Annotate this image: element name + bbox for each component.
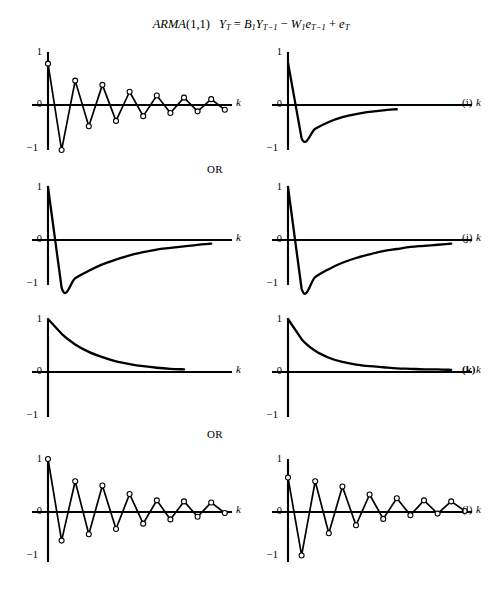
panel-l-right: 1 0 −1 k xyxy=(260,457,480,572)
y-axis-label-mid: 0 xyxy=(268,365,282,376)
title-eq-y2-sub: T−1 xyxy=(263,22,278,32)
y-axis-label-mid: 0 xyxy=(28,98,42,109)
y-axis-label-top: 1 xyxy=(28,181,42,192)
y-axis-label-mid: 0 xyxy=(268,233,282,244)
plot-i-left xyxy=(20,50,240,160)
data-point-marker xyxy=(422,498,427,503)
figure-title: ARMA(1,1)YT = B1YT−1 − W1eT−1 + eT xyxy=(0,17,502,32)
x-axis-label: k xyxy=(476,231,481,243)
y-axis-label-bottom: −1 xyxy=(264,409,278,420)
data-polyline xyxy=(48,459,225,541)
title-model: ARMA xyxy=(153,17,186,31)
x-axis-label: k xyxy=(476,96,481,108)
panel-tag-k: (k) xyxy=(462,363,475,375)
y-axis-label-bottom: −1 xyxy=(24,277,38,288)
x-axis-label: k xyxy=(236,363,241,375)
y-axis-label-bottom: −1 xyxy=(24,409,38,420)
or-separator-2: OR xyxy=(185,428,245,440)
data-point-markers xyxy=(46,61,228,152)
panel-i-right: 1 0 −1 k xyxy=(260,50,480,160)
y-axis-label-top: 1 xyxy=(268,46,282,57)
title-eq-y2: Y xyxy=(256,17,263,31)
y-axis-label-top: 1 xyxy=(28,313,42,324)
y-axis-label-bottom: −1 xyxy=(264,142,278,153)
data-point-marker xyxy=(182,499,187,504)
y-axis-label-bottom: −1 xyxy=(264,549,278,560)
plot-l-left xyxy=(20,457,240,572)
data-point-marker xyxy=(59,148,64,153)
data-point-marker xyxy=(46,61,51,66)
data-point-marker xyxy=(127,89,132,94)
data-point-marker xyxy=(449,499,454,504)
y-axis-label-mid: 0 xyxy=(28,365,42,376)
data-point-marker xyxy=(354,523,359,528)
y-axis-label-top: 1 xyxy=(28,46,42,57)
y-axis-label-bottom: −1 xyxy=(264,277,278,288)
panel-j-left: 1 0 −1 k xyxy=(20,185,240,295)
y-axis-label-mid: 0 xyxy=(268,505,282,516)
data-point-marker xyxy=(168,110,173,115)
x-axis-label: k xyxy=(476,363,481,375)
plot-j-right xyxy=(260,185,480,295)
y-axis-label-bottom: −1 xyxy=(24,549,38,560)
plot-j-left xyxy=(20,185,240,295)
or-separator-1: OR xyxy=(185,163,245,175)
data-point-marker xyxy=(195,109,200,114)
data-point-marker xyxy=(73,78,78,83)
y-axis-label-mid: 0 xyxy=(28,505,42,516)
plot-l-right xyxy=(260,457,480,572)
title-eq-y: Y xyxy=(219,17,226,31)
data-curve xyxy=(288,319,451,370)
title-eq-equals: = xyxy=(234,17,241,31)
data-point-marker xyxy=(73,479,78,484)
data-point-marker xyxy=(86,532,91,537)
y-axis-label-top: 1 xyxy=(268,181,282,192)
x-axis-label: k xyxy=(236,96,241,108)
data-point-marker xyxy=(381,516,386,521)
panel-tag-l: (l) xyxy=(462,503,472,515)
data-point-marker xyxy=(100,82,105,87)
panel-i-left: 1 0 −1 k xyxy=(20,50,240,160)
arma-acf-pacf-figure: ARMA(1,1)YT = B1YT−1 − W1eT−1 + eT OR OR… xyxy=(0,0,502,596)
title-eq-w: W xyxy=(291,17,301,31)
panel-l-left: 1 0 −1 k xyxy=(20,457,240,572)
x-axis-label: k xyxy=(236,503,241,515)
data-point-marker xyxy=(46,457,51,462)
data-point-marker xyxy=(154,498,159,503)
data-point-marker xyxy=(313,479,318,484)
x-axis-label: k xyxy=(236,231,241,243)
plot-k-left xyxy=(20,317,240,427)
title-order: (1,1) xyxy=(186,17,210,31)
data-point-markers xyxy=(286,475,468,558)
panel-k-left: 1 0 −1 k xyxy=(20,317,240,427)
data-point-marker xyxy=(59,538,64,543)
data-point-marker xyxy=(408,513,413,518)
title-eq-plus: + xyxy=(329,17,336,31)
title-eq-y-sub: T xyxy=(226,22,231,32)
data-point-marker xyxy=(394,496,399,501)
data-point-marker xyxy=(286,475,291,480)
data-polyline xyxy=(48,64,225,150)
data-point-marker xyxy=(195,514,200,519)
data-point-marker xyxy=(141,521,146,526)
plot-k-right xyxy=(260,317,480,427)
data-curve xyxy=(288,63,397,142)
data-point-marker xyxy=(340,484,345,489)
panel-tag-j: (j) xyxy=(462,231,472,243)
data-point-marker xyxy=(182,95,187,100)
data-point-marker xyxy=(154,93,159,98)
data-point-marker xyxy=(114,118,119,123)
y-axis-label-mid: 0 xyxy=(28,233,42,244)
data-point-marker xyxy=(435,511,440,516)
data-point-marker xyxy=(127,491,132,496)
data-point-marker xyxy=(86,124,91,129)
data-point-marker xyxy=(222,107,227,112)
data-point-marker xyxy=(168,517,173,522)
data-point-marker xyxy=(141,114,146,119)
data-point-marker xyxy=(222,511,227,516)
plot-i-right xyxy=(260,50,480,160)
panel-j-right: 1 0 −1 k xyxy=(260,185,480,295)
title-eq-b: B xyxy=(244,17,252,31)
data-point-marker xyxy=(299,553,304,558)
data-point-marker xyxy=(209,97,214,102)
